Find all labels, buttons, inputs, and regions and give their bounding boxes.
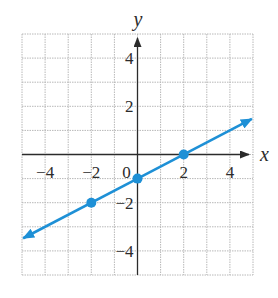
data-point [86,198,96,208]
line-segment-right [138,119,252,179]
axes [22,38,249,275]
y-tick-label: 2 [125,97,134,116]
x-tick-label: 2 [179,163,188,182]
x-tick-label: −4 [36,163,55,182]
x-axis-label: x [259,143,269,165]
y-tick-label: −2 [115,194,133,213]
x-tick-label: 4 [226,163,235,182]
x-tick-label: 0 [122,163,131,182]
y-tick-label: −4 [115,242,134,261]
x-tick-label: −2 [82,163,100,182]
y-axis-label: y [132,8,143,31]
y-tick-label: 4 [125,49,134,68]
data-point [179,150,189,160]
data-point [133,174,143,184]
coordinate-plane: −4−202442−2−4 x y [0,0,278,298]
